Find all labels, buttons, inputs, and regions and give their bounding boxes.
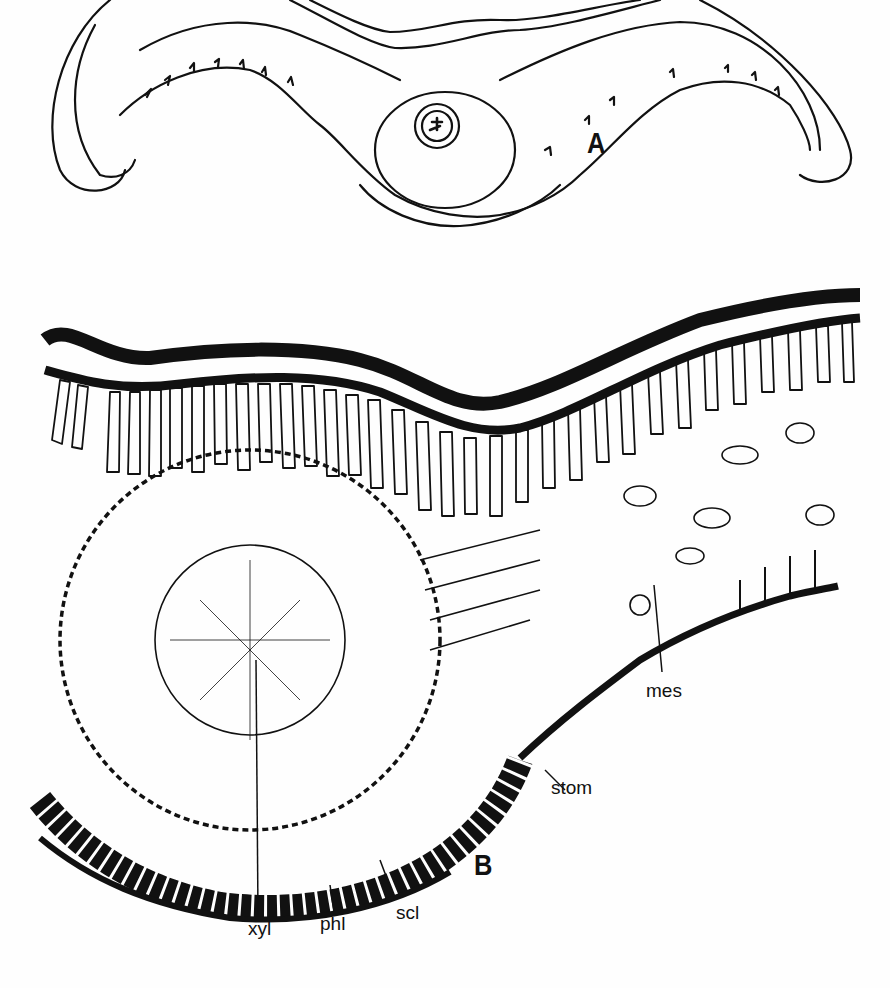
label-mesophyll: mes: [646, 680, 682, 702]
panel-label-b: B: [474, 848, 492, 882]
label-sclerenchyma: scl: [396, 902, 419, 924]
panel-label-a: A: [587, 126, 605, 160]
label-xylem: xyl: [248, 918, 271, 940]
panel-a-drawing: [0, 0, 890, 988]
figure-canvas: A B mes stom xyl phl scl: [0, 0, 890, 988]
label-stomata: stom: [551, 777, 592, 799]
label-phloem: phl: [320, 913, 345, 935]
